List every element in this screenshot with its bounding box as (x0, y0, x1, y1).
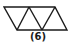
diagonal-3 (42, 7, 55, 30)
diagonal-2 (29, 7, 42, 30)
diagonal-1 (17, 7, 29, 30)
figure-label: (6) (0, 31, 70, 42)
